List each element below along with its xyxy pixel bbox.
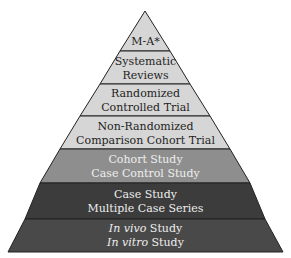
level-7-label-line1: In vivo Study: [0, 222, 291, 235]
in-vivo-italic: In vivo: [109, 222, 147, 235]
level-5-label-line2: Case Control Study: [0, 167, 291, 180]
in-vitro-italic: In vitro: [107, 236, 148, 249]
level-2-label-line2: Reviews: [0, 69, 291, 82]
level-2-label-line1: Systematic: [0, 55, 291, 68]
in-vivo-rest: Study: [146, 222, 182, 235]
level-7-label-line2: In vitro Study: [0, 236, 291, 249]
level-3-label-line1: Randomized: [0, 87, 291, 100]
in-vitro-rest: Study: [148, 236, 184, 249]
level-3-label-line2: Controlled Trial: [0, 101, 291, 114]
level-5-label-line1: Cohort Study: [0, 153, 291, 166]
level-1-label: M-A*: [0, 35, 291, 48]
level-6-label-line2: Multiple Case Series: [0, 202, 291, 215]
level-4-label-line2: Comparison Cohort Trial: [0, 134, 291, 147]
level-6-label-line1: Case Study: [0, 188, 291, 201]
level-4-label-line1: Non-Randomized: [0, 120, 291, 133]
